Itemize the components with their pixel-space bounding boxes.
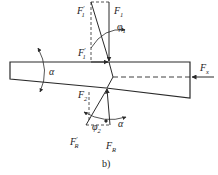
label-fr: FR xyxy=(105,140,116,153)
notch-lines xyxy=(107,62,113,88)
arc-dot xyxy=(105,120,107,122)
label-fx: Fx xyxy=(199,62,209,75)
label-alpha-left: α xyxy=(49,66,55,77)
figure-caption: b) xyxy=(102,158,110,170)
label-phi1: φ1 xyxy=(117,21,126,34)
label-f1: F1 xyxy=(113,5,123,18)
label-f1-prime-mid: F′1 xyxy=(77,46,86,60)
label-f1-prime-top: F′1 xyxy=(76,4,85,18)
phi1-arc xyxy=(91,30,125,48)
wedge-body xyxy=(10,62,190,98)
label-f2: F2 xyxy=(77,89,88,102)
label-fr-prime: F′R xyxy=(69,135,79,149)
force-diagram: F′1 F1 φ1 F′1 α Fx F2 φ2 α F′R FR b) xyxy=(0,0,218,175)
f1-prime-vector xyxy=(91,2,109,61)
label-alpha-bottom: α xyxy=(118,118,124,129)
alpha-left-arc xyxy=(38,48,45,92)
label-phi2: φ2 xyxy=(92,121,102,134)
